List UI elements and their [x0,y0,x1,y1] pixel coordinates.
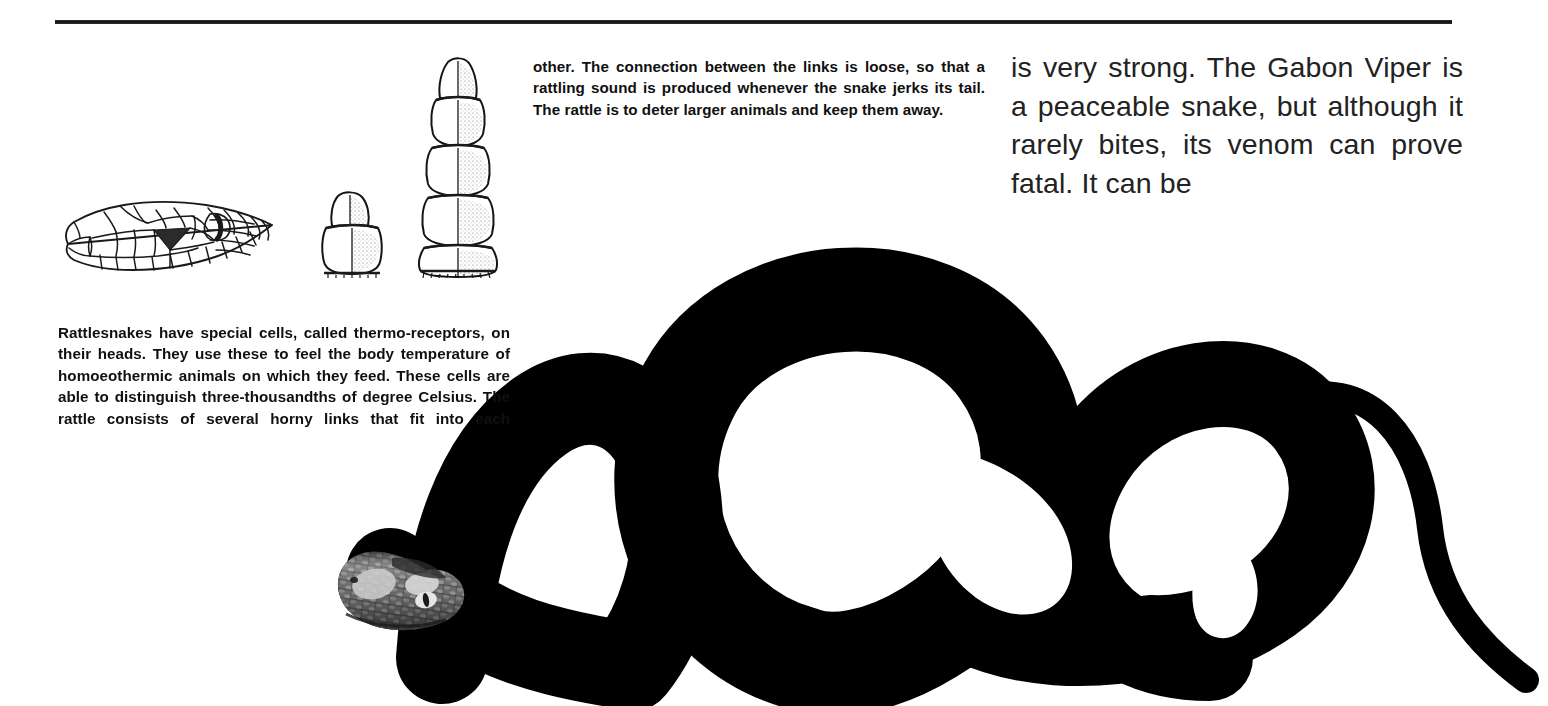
gabon-viper-photograph [330,228,1548,706]
page-canvas: other. The connection between the links … [0,0,1548,706]
snake-head-diagram [58,192,276,278]
page-top-rule [55,20,1452,24]
paragraph-gabon-viper: is very strong. The Gabon Viper is a pea… [1011,48,1463,202]
column-middle-text: other. The connection between the links … [533,56,985,120]
snake-body [330,228,1548,706]
paragraph-rattlesnake-thermoreceptors: Rattlesnakes have special cells, called … [58,322,510,429]
column-left-text: Rattlesnakes have special cells, called … [58,322,510,429]
paragraph-rattle-continuation: other. The connection between the links … [533,56,985,120]
column-right-text: is very strong. The Gabon Viper is a pea… [1011,48,1463,202]
